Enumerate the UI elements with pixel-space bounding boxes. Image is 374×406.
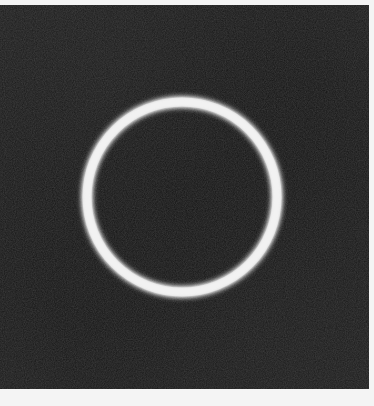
ring-core — [87, 102, 277, 292]
glowing-ring — [0, 5, 369, 389]
image-frame — [0, 0, 374, 406]
dark-photo — [0, 5, 369, 389]
